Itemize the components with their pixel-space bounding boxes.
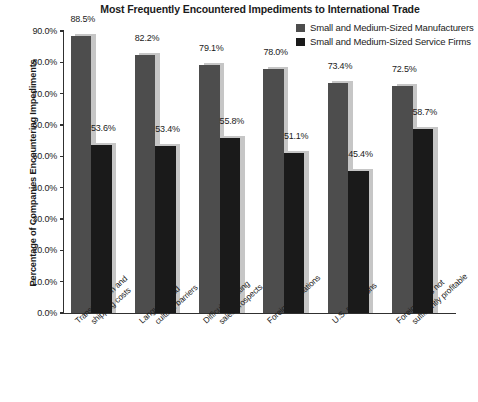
bar[interactable] [263, 69, 284, 313]
bar[interactable] [199, 65, 220, 313]
bar-value-label: 82.2% [135, 33, 160, 44]
y-axis-tick-mark [60, 281, 64, 283]
y-axis-tick-label: 60.0% [32, 120, 57, 130]
bar-value-label: 88.5% [71, 14, 96, 25]
bar-value-label: 58.7% [413, 107, 438, 118]
y-axis-tick: 60.0% [32, 120, 64, 130]
y-axis-tick-label: 10.0% [32, 277, 57, 287]
y-axis-tick-label: 90.0% [32, 26, 57, 36]
bar-value-label: 53.6% [91, 123, 116, 134]
y-axis-tick: 10.0% [32, 277, 64, 287]
bar-value-label: 78.0% [263, 47, 288, 58]
y-axis-tick: 80.0% [32, 57, 64, 67]
y-axis-tick-mark [60, 93, 64, 95]
bar-value-label: 51.1% [284, 131, 309, 142]
bar-value-label: 73.4% [328, 61, 353, 72]
y-axis-tick-mark [60, 30, 64, 32]
y-axis-tick: 70.0% [32, 89, 64, 99]
y-axis-tick-mark [60, 312, 64, 314]
y-axis-tick-mark [60, 156, 64, 158]
bar-value-label: 53.4% [155, 124, 180, 135]
bar[interactable] [71, 36, 92, 313]
y-axis-tick: 90.0% [32, 26, 64, 36]
y-axis-tick: 20.0% [32, 245, 64, 255]
chart-container: Most Frequently Encountered Impediments … [0, 0, 478, 402]
y-axis-tick: 50.0% [32, 151, 64, 161]
y-axis-tick: 0.0% [37, 308, 64, 318]
y-axis-tick-label: 70.0% [32, 89, 57, 99]
bar-group: 73.4%45.4% [328, 31, 374, 313]
y-axis-tick-mark [60, 187, 64, 189]
bar-value-label: 72.5% [392, 64, 417, 75]
y-axis-tick-label: 80.0% [32, 57, 57, 67]
bar[interactable] [392, 86, 413, 313]
y-axis-tick-label: 0.0% [37, 308, 57, 318]
bar[interactable] [135, 55, 156, 313]
y-axis-tick-label: 30.0% [32, 214, 57, 224]
y-axis-tick-mark [60, 62, 64, 64]
bar-group: 88.5%53.6% [71, 31, 117, 313]
y-axis-tick-mark [60, 250, 64, 252]
y-axis-tick-label: 20.0% [32, 245, 57, 255]
bar-group: 72.5%58.7% [392, 31, 438, 313]
y-axis-tick-mark [60, 124, 64, 126]
y-axis-tick: 40.0% [32, 183, 64, 193]
bar-value-label: 45.4% [348, 149, 373, 160]
bar-group: 79.1%55.8% [199, 31, 245, 313]
bar-group: 78.0%51.1% [263, 31, 309, 313]
y-axis-tick-label: 40.0% [32, 183, 57, 193]
y-axis-tick-mark [60, 218, 64, 220]
y-axis-tick-label: 50.0% [32, 151, 57, 161]
bar-value-label: 55.8% [220, 116, 245, 127]
bar-value-label: 79.1% [199, 43, 224, 54]
bar-group: 82.2%53.4% [135, 31, 181, 313]
y-axis-tick: 30.0% [32, 214, 64, 224]
plot-area: 90.0%80.0%70.0%60.0%50.0%40.0%30.0%20.0%… [63, 31, 456, 314]
bar[interactable] [328, 83, 349, 313]
